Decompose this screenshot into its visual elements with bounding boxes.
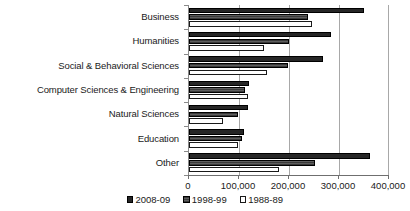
legend-item-1988-89[interactable]: 1988-89 [240, 194, 283, 205]
legend-label-2008-09: 2008-09 [135, 194, 170, 205]
bar[interactable] [189, 8, 364, 14]
y-axis-label-education: Education [0, 126, 183, 150]
plot-area [188, 5, 389, 175]
bar-chart: Business Humanities Social & Behavioral … [0, 0, 410, 211]
bar[interactable] [189, 14, 308, 20]
x-axis-tick [238, 175, 239, 179]
legend-label-1988-89: 1988-89 [248, 194, 283, 205]
bar[interactable] [189, 160, 315, 166]
bar[interactable] [189, 94, 248, 100]
x-axis-tick-labels: 0100,000200,000300,000400,000 [0, 180, 410, 194]
bar[interactable] [189, 118, 223, 124]
bar[interactable] [189, 87, 245, 93]
bar-group [189, 5, 389, 29]
y-axis-label-business: Business [0, 5, 183, 29]
legend-swatch-icon-1988-89 [240, 196, 247, 203]
bar[interactable] [189, 136, 242, 142]
x-axis-tick-label: 100,000 [221, 180, 255, 191]
bar[interactable] [189, 81, 249, 87]
bar-group [189, 78, 389, 102]
y-axis-label-other: Other [0, 151, 183, 175]
legend-swatch-icon-2008-09 [127, 196, 134, 203]
x-axis-tick [188, 175, 189, 179]
y-axis-label-natural-sciences: Natural Sciences [0, 102, 183, 126]
chart-legend: 2008-09 1998-99 1988-89 [0, 194, 410, 205]
bar-group [189, 29, 389, 53]
bar-group [189, 126, 389, 150]
y-axis-tick [184, 54, 188, 55]
y-axis-tick [184, 5, 188, 6]
x-axis-tick [338, 175, 339, 179]
bar[interactable] [189, 105, 248, 111]
bar[interactable] [189, 70, 267, 76]
bar[interactable] [189, 129, 244, 135]
legend-item-2008-09[interactable]: 2008-09 [127, 194, 170, 205]
legend-item-1998-99[interactable]: 1998-99 [183, 194, 226, 205]
y-axis-tick [184, 126, 188, 127]
x-axis-tick-label: 300,000 [321, 180, 355, 191]
y-axis-tick [184, 151, 188, 152]
legend-swatch-icon-1998-99 [183, 196, 190, 203]
bar[interactable] [189, 32, 331, 38]
bar-group [189, 54, 389, 78]
legend-label-1998-99: 1998-99 [192, 194, 227, 205]
y-axis-label-humanities: Humanities [0, 29, 183, 53]
y-axis-label-social-behavioral-sciences: Social & Behavioral Sciences [0, 54, 183, 78]
x-axis-tick-label: 200,000 [271, 180, 305, 191]
bar[interactable] [189, 21, 312, 27]
y-axis-label-computer-sciences-engineering: Computer Sciences & Engineering [0, 78, 183, 102]
bar-groups [189, 5, 389, 175]
x-axis-tick-label: 400,000 [371, 180, 405, 191]
bar-group [189, 102, 389, 126]
x-axis-tick-label: 0 [185, 180, 190, 191]
bar[interactable] [189, 45, 264, 51]
bar[interactable] [189, 167, 279, 173]
y-axis-category-labels: Business Humanities Social & Behavioral … [0, 5, 183, 175]
bar[interactable] [189, 63, 288, 69]
bar-group [189, 151, 389, 175]
bar[interactable] [189, 112, 238, 118]
bar[interactable] [189, 39, 289, 45]
y-axis-tick [184, 175, 188, 176]
bar[interactable] [189, 153, 370, 159]
y-axis-tick [184, 102, 188, 103]
x-axis-tick [288, 175, 289, 179]
y-axis-tick [184, 78, 188, 79]
y-axis-tick [184, 29, 188, 30]
x-axis-tick [388, 175, 389, 179]
bar[interactable] [189, 56, 323, 62]
bar[interactable] [189, 142, 238, 148]
